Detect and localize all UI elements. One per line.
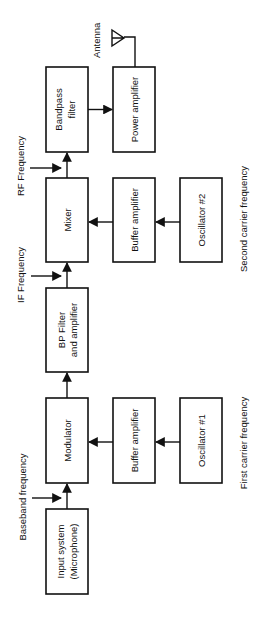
block-bandpass-filter: Bandpass filter [46, 67, 88, 152]
svg-text:(Microphone): (Microphone) [68, 524, 79, 580]
block-oscillator-1: Oscillator #1 [180, 398, 222, 483]
svg-text:Buffer amplifier: Buffer amplifier [129, 409, 140, 473]
svg-text:Power amplifier: Power amplifier [129, 77, 140, 142]
antenna-icon [112, 30, 135, 67]
block-power-amplifier: Power amplifier [113, 67, 155, 152]
antenna-label: Antenna [91, 22, 102, 58]
svg-text:Bandpass: Bandpass [53, 88, 64, 131]
second-carrier-frequency-label: Second carrier frequency [238, 166, 249, 272]
baseband-frequency-label: Baseband frequency [17, 453, 28, 540]
block-mixer: Mixer [46, 178, 88, 262]
block-modulator: Modulator [46, 398, 88, 483]
block-input-system: Input system (Microphone) [46, 509, 88, 594]
svg-text:BP Filter: BP Filter [56, 312, 67, 348]
block-bp-filter-amplifier: BP Filter and amplifier [46, 288, 88, 372]
block-buffer-amplifier-2: Buffer amplifier [113, 178, 155, 262]
svg-text:Mixer: Mixer [62, 208, 73, 231]
block-buffer-amplifier-1: Buffer amplifier [113, 398, 155, 483]
transmitter-block-diagram: Antenna Bandpass filter Mixer BP Filter … [0, 0, 255, 641]
svg-text:Buffer amplifier: Buffer amplifier [129, 188, 140, 252]
first-carrier-frequency-label: First carrier frequency [238, 397, 249, 490]
rf-frequency-label: RF Frequency [15, 136, 26, 196]
svg-text:Oscillator #1: Oscillator #1 [196, 414, 207, 467]
block-oscillator-2: Oscillator #2 [180, 178, 222, 262]
svg-text:and amplifier: and amplifier [68, 303, 79, 357]
svg-text:filter: filter [66, 101, 77, 119]
svg-text:Input system: Input system [55, 524, 66, 578]
svg-text:Oscillator #2: Oscillator #2 [196, 194, 207, 247]
svg-text:Modulator: Modulator [62, 419, 73, 461]
if-frequency-label: IF Frequency [15, 247, 26, 303]
